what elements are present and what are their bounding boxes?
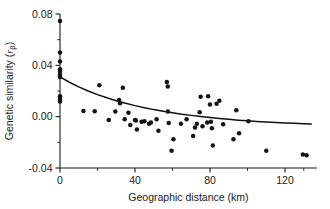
data-point xyxy=(246,119,251,124)
data-point xyxy=(113,109,118,114)
scatter-points xyxy=(58,19,309,158)
x-tick-label: 120 xyxy=(276,174,294,186)
data-point xyxy=(210,126,215,131)
data-point xyxy=(217,98,222,103)
data-point xyxy=(301,152,306,157)
data-point xyxy=(167,121,172,126)
data-point xyxy=(205,120,210,125)
data-point xyxy=(211,143,216,148)
data-point xyxy=(234,108,239,113)
data-point xyxy=(197,110,202,115)
data-point xyxy=(154,117,159,122)
data-point xyxy=(122,117,127,122)
data-point xyxy=(171,137,176,142)
data-point xyxy=(135,127,140,132)
x-tick-label: 80 xyxy=(204,174,216,186)
data-point xyxy=(121,86,126,91)
data-point xyxy=(184,117,189,122)
data-point xyxy=(107,118,112,123)
data-point xyxy=(179,121,184,126)
x-axis-title: Geographic distance (km) xyxy=(128,191,248,203)
y-axis-title: Genetic similarity (rβ) xyxy=(3,42,17,140)
data-point xyxy=(193,125,198,130)
y-tick-label: 0.04 xyxy=(32,59,53,71)
data-point xyxy=(128,123,133,128)
data-point xyxy=(58,99,63,104)
data-point xyxy=(81,109,86,114)
data-point xyxy=(126,111,131,116)
data-point xyxy=(208,102,213,107)
data-point xyxy=(166,84,171,89)
data-point xyxy=(58,50,63,55)
data-point xyxy=(195,121,200,126)
data-point xyxy=(191,134,196,139)
data-point xyxy=(304,153,309,158)
data-point xyxy=(58,59,63,64)
data-point xyxy=(58,19,63,24)
data-point xyxy=(231,137,236,142)
data-point xyxy=(118,101,123,106)
data-point xyxy=(134,118,139,123)
data-point xyxy=(149,120,154,125)
data-point xyxy=(97,83,102,88)
data-point xyxy=(237,131,242,136)
x-tick-label: 0 xyxy=(57,174,63,186)
y-tick-label: -0.04 xyxy=(29,162,53,174)
data-point xyxy=(209,120,214,125)
chart-canvas: -0.040.000.040.0804080120Geographic dist… xyxy=(0,0,330,209)
data-point xyxy=(165,80,170,85)
data-point xyxy=(142,119,147,124)
y-tick-label: 0.00 xyxy=(32,110,53,122)
data-point xyxy=(58,75,63,80)
data-point xyxy=(169,148,174,153)
data-point xyxy=(264,148,269,153)
data-point xyxy=(221,122,226,127)
axis-labels: -0.040.000.040.0804080120Geographic dist… xyxy=(3,8,294,203)
data-point xyxy=(200,124,205,129)
data-point xyxy=(156,129,161,134)
x-tick-label: 40 xyxy=(129,174,141,186)
genetic-similarity-scatter-figure: -0.040.000.040.0804080120Geographic dist… xyxy=(0,0,330,209)
data-point xyxy=(166,109,171,114)
data-point xyxy=(198,95,203,100)
data-point xyxy=(92,109,97,114)
data-point xyxy=(206,94,211,99)
y-tick-label: 0.08 xyxy=(32,8,53,20)
